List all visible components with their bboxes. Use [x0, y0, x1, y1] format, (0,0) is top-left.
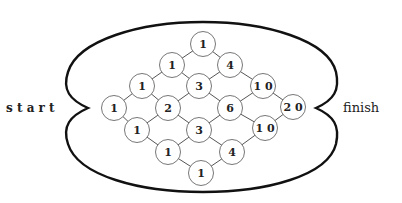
node: 4: [218, 53, 243, 78]
node: 2 0: [281, 95, 306, 120]
node-value: 1: [164, 146, 172, 159]
node-value: 2: [164, 102, 172, 115]
node: 1: [130, 74, 155, 99]
node: 6: [218, 96, 243, 121]
node-value: 1: [199, 38, 207, 51]
node-value: 1: [197, 167, 205, 180]
node-value: 4: [226, 59, 234, 72]
nodes-layer: 111112341361 0141 02 0: [102, 32, 306, 186]
node: 1: [160, 53, 185, 78]
node-value: 1 0: [255, 122, 274, 135]
edges-layer: [114, 44, 293, 173]
node-value: 2 0: [283, 101, 302, 114]
finish-label: finish: [343, 100, 380, 115]
node-value: 3: [195, 124, 203, 137]
node: 2: [156, 96, 181, 121]
node: 1: [191, 32, 216, 57]
node-value: 1: [133, 124, 141, 137]
node-value: 1 0: [253, 80, 272, 93]
node-value: 1: [138, 80, 146, 93]
node: 1: [156, 140, 181, 165]
start-label: s t a r t: [6, 101, 55, 115]
grid-path-diagram: 111112341361 0141 02 0 s t a r t finish: [0, 0, 402, 203]
node-value: 1: [168, 59, 176, 72]
node: 1: [189, 161, 214, 186]
node-value: 1: [110, 102, 118, 115]
node: 4: [220, 140, 245, 165]
node-value: 3: [195, 80, 203, 93]
node: 3: [187, 118, 212, 143]
node-value: 6: [226, 102, 234, 115]
node: 1 0: [251, 74, 276, 99]
node: 1: [125, 118, 150, 143]
node: 1 0: [253, 116, 278, 141]
node: 3: [187, 74, 212, 99]
node: 1: [102, 96, 127, 121]
node-value: 4: [228, 146, 236, 159]
